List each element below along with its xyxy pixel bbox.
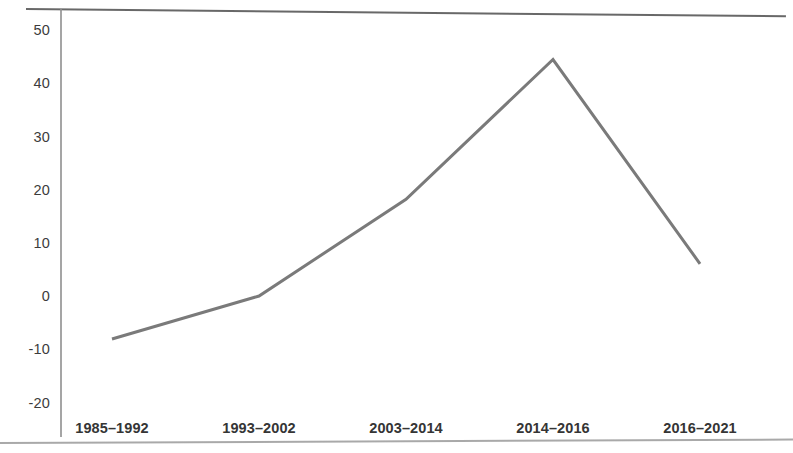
x-tick-label-2: 2003–2014 [369,420,442,436]
x-tick-label-0: 1985–1992 [75,420,148,436]
x-tick-label-1: 1993–2002 [222,420,295,436]
chart-page: 50 40 30 20 10 0 -10 -20 1985–1992 1993–… [0,0,793,453]
line-series [0,0,793,453]
plot-area: 50 40 30 20 10 0 -10 -20 1985–1992 1993–… [0,0,793,453]
x-tick-label-3: 2014–2016 [516,420,589,436]
series-polyline [112,60,700,340]
x-tick-label-4: 2016–2021 [663,420,736,436]
